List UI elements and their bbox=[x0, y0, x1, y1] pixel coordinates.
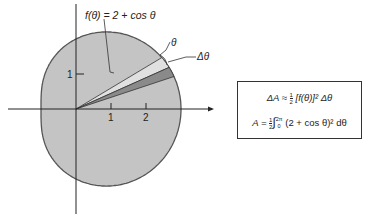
formula-area-integral: A = 12∫2π0 (2 + cos θ)² dθ bbox=[238, 115, 361, 130]
formula1-lhs: ΔA ≈ bbox=[267, 92, 287, 103]
y-tick-label-1: 1 bbox=[67, 69, 73, 80]
frac-denominator: 2 bbox=[290, 99, 293, 105]
x-tick-label-1: 1 bbox=[108, 112, 114, 123]
formula1-rhs: [f(θ)]² Δθ bbox=[296, 92, 333, 103]
upper-limit: 2π bbox=[276, 116, 283, 123]
curve-equation-label: f(θ) = 2 + cos θ bbox=[85, 9, 155, 21]
frac-numerator: 1 bbox=[290, 92, 293, 99]
lower-limit: 0 bbox=[276, 123, 283, 130]
formula-box: ΔA ≈ 12 [f(θ)]² Δθ A = 12∫2π0 (2 + cos θ… bbox=[237, 81, 362, 139]
integral-limits: 2π0 bbox=[276, 116, 283, 130]
theta-label: θ bbox=[171, 37, 176, 48]
formula-delta-area: ΔA ≈ 12 [f(θ)]² Δθ bbox=[238, 92, 361, 105]
x-axis-arrow-icon bbox=[208, 107, 214, 112]
delta-theta-label: Δθ bbox=[197, 51, 209, 62]
formula1-fraction: 12 bbox=[290, 92, 293, 105]
delta-theta-leader bbox=[168, 57, 196, 62]
formula2-lhs: A = bbox=[252, 117, 266, 128]
theta-leader bbox=[160, 42, 170, 55]
x-tick-label-2: 2 bbox=[143, 112, 149, 123]
formula2-rhs: (2 + cos θ)² dθ bbox=[285, 117, 347, 128]
